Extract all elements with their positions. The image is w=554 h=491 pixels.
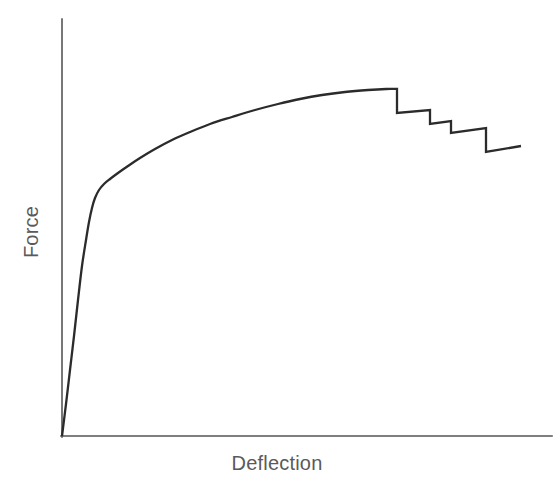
force-deflection-curve: [62, 89, 521, 436]
x-axis-label: Deflection: [0, 452, 554, 475]
chart-canvas: [0, 0, 554, 491]
force-deflection-figure: Force Deflection: [0, 0, 554, 491]
axes-group: [61, 19, 552, 437]
data-series-group: [62, 89, 521, 436]
y-axis-label: Force: [20, 192, 43, 272]
